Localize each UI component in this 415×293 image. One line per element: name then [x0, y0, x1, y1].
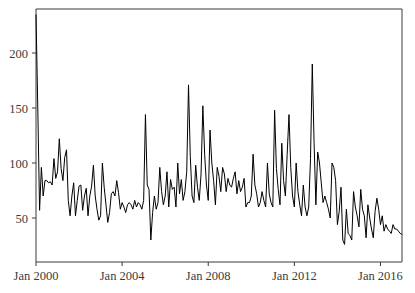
y-tick-label: 150 [9, 102, 28, 116]
y-axis-ticks: 50100150200 [9, 47, 36, 226]
x-tick-label: Jan 2004 [100, 269, 146, 283]
y-tick-label: 100 [9, 157, 28, 171]
x-tick-label: Jan 2016 [358, 269, 403, 283]
x-axis-ticks: Jan 2000Jan 2004Jan 2008Jan 2012Jan 2016 [14, 262, 403, 283]
line-chart: 50100150200 Jan 2000Jan 2004Jan 2008Jan … [0, 0, 415, 293]
series-line [36, 15, 402, 245]
y-tick-label: 200 [9, 47, 28, 61]
chart-figure: 50100150200 Jan 2000Jan 2004Jan 2008Jan … [0, 0, 415, 293]
data-series-group [36, 15, 402, 245]
x-tick-label: Jan 2000 [14, 269, 59, 283]
y-tick-label: 50 [16, 212, 29, 226]
x-tick-label: Jan 2012 [272, 269, 317, 283]
x-tick-label: Jan 2008 [186, 269, 231, 283]
